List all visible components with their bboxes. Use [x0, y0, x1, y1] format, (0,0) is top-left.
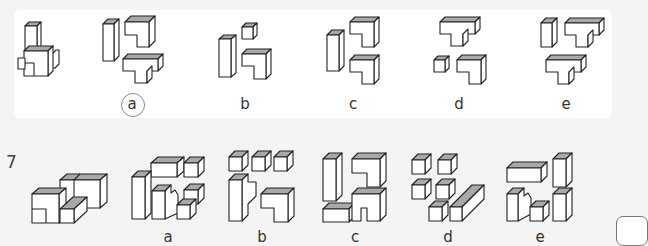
problem-6-option-a[interactable]: a	[122, 95, 142, 113]
problem-6-target-figure	[18, 22, 59, 76]
problem-6-option-c-figure	[327, 17, 379, 84]
problem-6-option-b-figure	[219, 23, 271, 79]
problem-7-option-e[interactable]: e	[530, 228, 550, 246]
problem-6-option-b[interactable]: b	[235, 95, 255, 113]
problem-6-option-e-figure	[541, 18, 604, 84]
problem-7-option-a[interactable]: a	[158, 228, 178, 246]
problem-6-option-d-figure	[434, 17, 486, 84]
problem-6-option-c[interactable]: c	[343, 95, 363, 113]
problem-6-option-a-figure	[103, 16, 163, 83]
problem-6-option-e[interactable]: e	[556, 95, 576, 113]
problem-7-target-figure	[32, 174, 107, 223]
problem-7-answer-box[interactable]	[616, 216, 648, 246]
problem-7-option-d-figure	[412, 154, 484, 221]
problem-7-option-b-figure	[229, 151, 294, 222]
problem-7-option-e-figure	[507, 153, 572, 221]
problem-7-option-b[interactable]: b	[252, 228, 272, 246]
problem-6-option-d[interactable]: d	[449, 95, 469, 113]
problem-7-option-c-figure	[323, 153, 386, 222]
problem-7-option-d[interactable]: d	[438, 228, 458, 246]
problem-7-number: 7	[6, 152, 17, 172]
problem-7-option-c[interactable]: c	[345, 228, 365, 246]
problem-7-option-a-figure	[132, 157, 204, 219]
